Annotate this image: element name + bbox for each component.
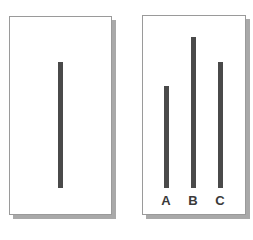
comparison-line-c [218,62,223,188]
comparison-line-b [191,37,196,188]
label-b: B [185,193,201,208]
label-a: A [158,193,174,208]
comparison-line-a [164,86,169,188]
reference-line [58,62,63,188]
label-c: C [212,193,228,208]
